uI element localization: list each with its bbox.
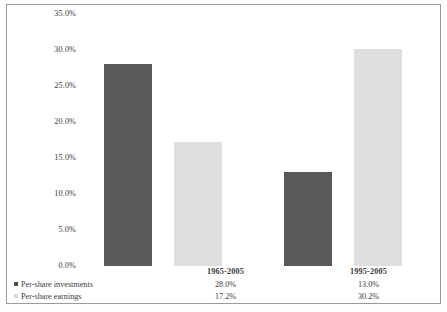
- value-earnings-1995-2005: 30.2%: [297, 291, 440, 303]
- y-axis: 35.0% 30.0% 25.0% 20.0% 15.0% 10.0% 5.0%…: [10, 14, 76, 266]
- table-row-investments: Per-share investments 28.0% 13.0%: [7, 278, 440, 290]
- table-header-group-1: 1965-2005: [154, 266, 297, 278]
- legend-item-earnings: Per-share earnings: [7, 291, 154, 303]
- bar-1965-2005-investments: [104, 64, 152, 266]
- value-investments-1965-2005: 28.0%: [154, 278, 297, 290]
- y-axis-tick-20: 20.0%: [10, 118, 76, 126]
- chart-figure: 35.0% 30.0% 25.0% 20.0% 15.0% 10.0% 5.0%…: [0, 0, 447, 312]
- bar-1995-2005-investments: [284, 172, 332, 266]
- table-corner-cell: [7, 266, 154, 278]
- y-axis-tick-10: 10.0%: [10, 190, 76, 198]
- table-row-earnings: Per-share earnings 17.2% 30.2%: [7, 291, 440, 303]
- y-axis-tick-30: 30.0%: [10, 46, 76, 54]
- data-table: 1965-2005 1995-2005 Per-share investment…: [7, 266, 440, 303]
- table-row-group-headers: 1965-2005 1995-2005: [7, 266, 440, 278]
- legend-swatch-earnings-icon: [14, 294, 18, 298]
- y-axis-tick-5: 5.0%: [10, 226, 76, 234]
- legend-swatch-investments-icon: [14, 282, 18, 286]
- y-axis-tick-25: 25.0%: [10, 82, 76, 90]
- y-axis-tick-15: 15.0%: [10, 154, 76, 162]
- plot-area: [78, 14, 430, 266]
- legend-label-earnings: Per-share earnings: [21, 292, 82, 301]
- legend-item-investments: Per-share investments: [7, 278, 154, 290]
- value-earnings-1965-2005: 17.2%: [154, 291, 297, 303]
- table-header-group-2: 1995-2005: [297, 266, 440, 278]
- y-axis-tick-35: 35.0%: [10, 10, 76, 18]
- legend-label-investments: Per-share investments: [21, 280, 93, 289]
- bar-1965-2005-earnings: [174, 142, 222, 266]
- value-investments-1995-2005: 13.0%: [297, 278, 440, 290]
- bar-1995-2005-earnings: [354, 49, 402, 266]
